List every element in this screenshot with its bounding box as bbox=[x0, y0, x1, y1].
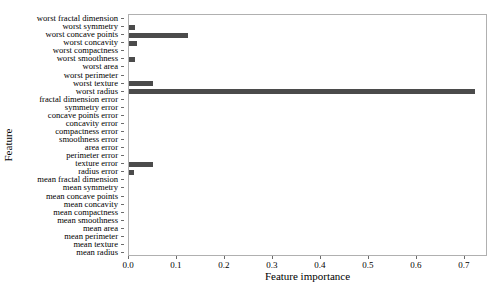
y-tick-mark bbox=[121, 123, 124, 124]
x-tick-mark bbox=[464, 256, 465, 259]
x-tick-label: 0.3 bbox=[266, 260, 277, 270]
x-tick-mark bbox=[128, 256, 129, 259]
y-tick-mark bbox=[121, 187, 124, 188]
y-tick-mark bbox=[121, 42, 124, 43]
y-tick-mark bbox=[121, 236, 124, 237]
plot-area bbox=[128, 14, 487, 256]
bars-group bbox=[129, 15, 486, 255]
x-tick-label: 0.7 bbox=[458, 260, 469, 270]
y-tick-mark bbox=[121, 26, 124, 27]
y-tick-mark bbox=[121, 228, 124, 229]
y-tick-mark bbox=[121, 131, 124, 132]
bar bbox=[129, 89, 475, 94]
y-tick-mark bbox=[121, 83, 124, 84]
y-tick-mark bbox=[121, 18, 124, 19]
y-tick-mark bbox=[121, 50, 124, 51]
y-tick-mark bbox=[121, 34, 124, 35]
bar bbox=[129, 33, 188, 38]
bar bbox=[129, 81, 153, 86]
y-tick-label: mean radius bbox=[76, 247, 118, 257]
bar bbox=[129, 170, 134, 175]
x-tick-mark bbox=[416, 256, 417, 259]
x-axis-title: Feature importance bbox=[128, 270, 487, 282]
y-tick-mark bbox=[121, 212, 124, 213]
y-tick-mark bbox=[121, 179, 124, 180]
x-tick-label: 0.4 bbox=[314, 260, 325, 270]
y-tick-mark bbox=[121, 155, 124, 156]
x-tick-label: 0.6 bbox=[410, 260, 421, 270]
x-tick-mark bbox=[224, 256, 225, 259]
bar bbox=[129, 25, 135, 30]
y-tick-mark bbox=[121, 75, 124, 76]
y-tick-mark bbox=[121, 171, 124, 172]
bar bbox=[129, 41, 137, 46]
y-tick-mark bbox=[121, 204, 124, 205]
y-tick-mark bbox=[121, 99, 124, 100]
y-tick-mark bbox=[121, 115, 124, 116]
y-tick-mark bbox=[121, 147, 124, 148]
y-tick-mark bbox=[121, 196, 124, 197]
x-tick-label: 0.1 bbox=[170, 260, 181, 270]
x-tick-label: 0.0 bbox=[122, 260, 133, 270]
x-tick-mark bbox=[272, 256, 273, 259]
y-tick-mark bbox=[121, 107, 124, 108]
y-tick-mark bbox=[121, 91, 124, 92]
x-tick-mark bbox=[368, 256, 369, 259]
y-tick-mark bbox=[121, 220, 124, 221]
x-tick-mark bbox=[176, 256, 177, 259]
bar bbox=[129, 162, 153, 167]
y-tick-mark bbox=[121, 66, 124, 67]
y-tick-mark bbox=[121, 58, 124, 59]
x-tick-mark bbox=[320, 256, 321, 259]
bar bbox=[129, 57, 135, 62]
y-tick-mark bbox=[121, 252, 124, 253]
feature-importance-chart: Feature worst fractal dimensionworst sym… bbox=[0, 0, 497, 290]
x-tick-label: 0.5 bbox=[362, 260, 373, 270]
y-axis-tick-labels: worst fractal dimensionworst symmetrywor… bbox=[0, 14, 124, 256]
y-tick-mark bbox=[121, 139, 124, 140]
x-tick-label: 0.2 bbox=[218, 260, 229, 270]
y-tick-mark bbox=[121, 244, 124, 245]
y-tick-mark bbox=[121, 163, 124, 164]
